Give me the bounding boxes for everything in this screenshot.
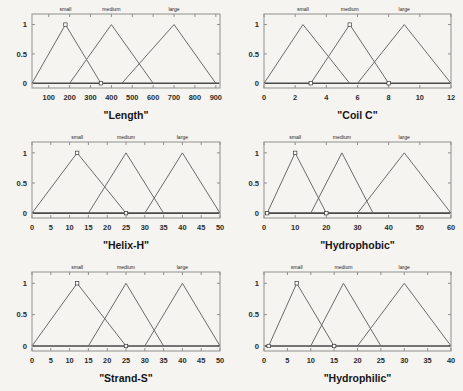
membership-label-medium: medium	[102, 6, 120, 12]
plot-frame	[264, 14, 451, 88]
vertex-marker	[265, 211, 268, 214]
y-tick-label: 1	[23, 20, 28, 29]
chart-panel: 010203040506000.51smallmediumlarge"Hydro…	[232, 128, 463, 258]
vertex-marker	[99, 82, 102, 85]
x-tick-label: 700	[168, 93, 180, 102]
x-tick-label: 10	[291, 223, 299, 232]
x-tick-label: 900	[210, 93, 222, 102]
vertex-marker	[295, 282, 298, 285]
x-tick-label: 12	[447, 93, 455, 102]
x-tick-label: 10	[307, 356, 315, 365]
membership-curve-medium	[70, 25, 154, 84]
membership-label-large: large	[177, 134, 188, 140]
membership-label-large: large	[399, 134, 410, 140]
x-tick-label: 600	[147, 93, 159, 102]
membership-curve-large	[145, 283, 220, 346]
vertex-marker	[124, 344, 127, 347]
x-tick-label: 0	[30, 356, 34, 365]
x-tick-label: 10	[65, 223, 73, 232]
x-tick-label: 15	[84, 356, 92, 365]
membership-label-small: small	[71, 134, 83, 140]
y-tick-label: 0	[255, 209, 259, 218]
membership-curve-medium	[311, 153, 373, 213]
plot-frame	[264, 142, 451, 218]
plot-frame	[264, 272, 451, 351]
y-tick-label: 0	[255, 79, 259, 88]
x-tick-label: 10	[65, 356, 73, 365]
membership-curve-large	[358, 153, 452, 213]
x-tick-label: 50	[416, 223, 424, 232]
x-tick-label: 20	[353, 356, 361, 365]
membership-label-small: small	[291, 264, 303, 270]
x-tick-label: 30	[141, 356, 149, 365]
panel-title: "Hydrophobic"	[320, 239, 395, 251]
membership-label-medium: medium	[117, 134, 135, 140]
panel-title: "Length"	[104, 109, 149, 121]
x-tick-label: 15	[330, 356, 338, 365]
membership-label-medium: medium	[117, 264, 135, 270]
y-tick-label: 1	[255, 20, 260, 29]
x-tick-label: 0	[262, 223, 266, 232]
x-tick-label: 400	[105, 93, 117, 102]
x-tick-label: 50	[216, 223, 224, 232]
membership-label-large: large	[399, 264, 410, 270]
y-tick-label: 0	[23, 79, 27, 88]
y-tick-label: 0.5	[248, 310, 259, 319]
membership-label-large: large	[399, 6, 410, 12]
x-tick-label: 45	[197, 356, 205, 365]
membership-label-small: small	[59, 6, 71, 12]
x-tick-label: 6	[355, 93, 359, 102]
membership-curve-large	[358, 25, 452, 84]
x-tick-label: 50	[216, 356, 224, 365]
x-tick-label: 15	[84, 223, 92, 232]
membership-curve-small	[264, 25, 350, 84]
membership-curve-medium	[88, 283, 163, 346]
x-tick-label: 5	[285, 356, 289, 365]
x-tick-label: 35	[424, 356, 432, 365]
x-tick-label: 10	[416, 93, 424, 102]
x-tick-label: 30	[141, 223, 149, 232]
membership-label-medium: medium	[334, 264, 352, 270]
x-tick-label: 45	[197, 223, 205, 232]
x-tick-label: 60	[447, 223, 455, 232]
chart-panel: 0510152025303540455000.51smallmediumlarg…	[0, 128, 232, 258]
membership-curve-medium	[311, 25, 389, 84]
membership-label-small: small	[289, 134, 301, 140]
y-tick-label: 0.5	[248, 50, 259, 59]
x-tick-label: 40	[178, 223, 186, 232]
x-tick-label: 30	[400, 356, 408, 365]
vertex-marker	[267, 344, 270, 347]
x-tick-label: 20	[103, 223, 111, 232]
chart-panel: 10020030040050060070080090000.51smallmed…	[0, 0, 232, 128]
x-tick-label: 5	[49, 223, 53, 232]
membership-curve-large	[358, 283, 452, 346]
x-tick-label: 20	[322, 223, 330, 232]
x-tick-label: 25	[122, 223, 130, 232]
membership-curve-large	[145, 153, 220, 213]
x-tick-label: 30	[353, 223, 361, 232]
y-tick-label: 0	[23, 209, 27, 218]
vertex-marker	[325, 211, 328, 214]
panel-title: "Coil C"	[337, 109, 377, 121]
chart-panel: 02468101200.51smallmediumlarge"Coil C"	[232, 0, 463, 128]
membership-curve-medium	[311, 283, 381, 346]
vertex-marker	[309, 82, 312, 85]
membership-label-medium: medium	[341, 6, 359, 12]
x-tick-label: 800	[189, 93, 201, 102]
membership-curve-small	[32, 153, 126, 213]
membership-curve-small	[269, 283, 334, 346]
y-tick-label: 1	[23, 279, 28, 288]
x-tick-label: 20	[103, 356, 111, 365]
x-tick-label: 4	[324, 93, 329, 102]
x-tick-label: 35	[159, 223, 167, 232]
plot-frame	[32, 14, 220, 88]
y-tick-label: 0.5	[248, 179, 259, 188]
x-tick-label: 500	[126, 93, 138, 102]
x-tick-label: 300	[84, 93, 96, 102]
x-tick-label: 25	[377, 356, 385, 365]
y-tick-label: 0.5	[16, 50, 27, 59]
x-tick-label: 2	[293, 93, 297, 102]
x-tick-label: 0	[30, 223, 34, 232]
membership-label-small: small	[297, 6, 309, 12]
chart-panel: 0510152025303540455000.51smallmediumlarg…	[0, 258, 232, 391]
